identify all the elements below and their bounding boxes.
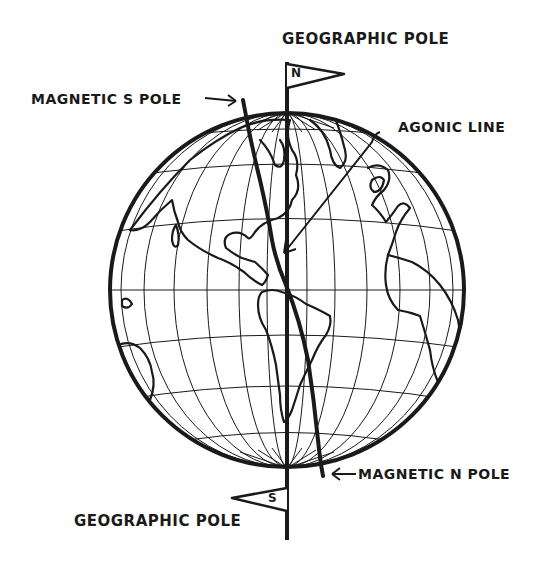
magnetic-n-pole-label: MAGNETIC N POLE — [358, 467, 510, 481]
north-america-outline — [130, 120, 298, 285]
geographic-pole-bottom-label: GEOGRAPHIC POLE — [74, 514, 241, 529]
magnetic-s-pole-label: MAGNETIC S POLE — [31, 92, 182, 106]
magnetic-n-pole-arrow — [332, 468, 356, 480]
agonic-line-label: AGONIC LINE — [398, 120, 505, 134]
south-flag-letter: S — [268, 492, 277, 504]
north-flag-letter: N — [291, 67, 302, 79]
agonic-pointer-arrow — [284, 132, 380, 253]
geographic-pole-top-label: GEOGRAPHIC POLE — [282, 32, 449, 47]
south-flag — [232, 488, 287, 511]
magnetic-s-pole-arrow — [205, 95, 236, 106]
globe-diagram: N S GEOGRAPHIC POLE MAGNETIC S POLE AGON… — [0, 0, 554, 564]
